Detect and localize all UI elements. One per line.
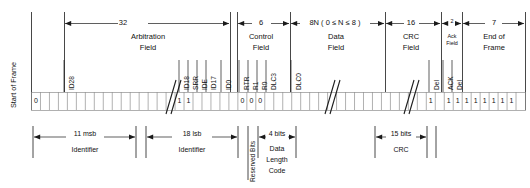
crc-field-line1: CRC <box>381 33 441 41</box>
identifier-msb-caption: Identifier <box>55 146 115 153</box>
r0-bit: 0 <box>256 97 265 104</box>
rtr-bit: 0 <box>238 97 247 104</box>
eof-bit-1: 1 <box>453 97 462 104</box>
crc-annotation-caption: CRC <box>377 146 425 153</box>
start-of-frame-label: Start of Frame <box>10 62 17 108</box>
ack-field-name: Ack Field <box>442 34 462 47</box>
eof-field-bits: 7 <box>479 19 509 27</box>
data-length-code-line3: Code <box>261 167 293 174</box>
ack-del-bit: 1 <box>444 97 453 104</box>
data-length-code-bits: 4 bits <box>261 130 293 137</box>
identifier-lsb-caption: Identifier <box>162 146 222 153</box>
bit-marker-ack-slot: ACK <box>448 76 455 90</box>
crc-del-bit: 1 <box>426 97 435 104</box>
data-field-line2: Field <box>306 44 366 52</box>
eof-bit-5: 1 <box>489 97 498 104</box>
data-length-code-line2: Length <box>261 156 293 163</box>
bit-marker-ide: IDE <box>202 79 209 90</box>
eof-field-name: End of Frame <box>464 33 524 51</box>
arbitration-field-bits: 32 <box>108 19 138 27</box>
reserved-bits-caption: Reserved Bits <box>250 141 257 182</box>
control-field-name: Control Field <box>231 33 291 51</box>
control-field-line2: Field <box>231 44 291 52</box>
bit-marker-crc-delimiter: Del <box>434 80 441 90</box>
crc-annotation-bits: 15 bits <box>377 130 425 137</box>
ack-field-bits: 2 <box>443 19 461 24</box>
identifier-msb-bits: 11 msb <box>55 130 115 137</box>
eof-bit-2: 1 <box>462 97 471 104</box>
r1-bit: 0 <box>247 97 256 104</box>
bit-marker-id28: ID28 <box>69 76 76 90</box>
identifier-lsb-bits: 18 lsb <box>162 130 222 137</box>
crc-field-line2: Field <box>381 44 441 52</box>
arbitration-field-line1: Arbitration <box>103 33 193 41</box>
eof-field-line2: Frame <box>464 44 524 52</box>
bit-marker-id18: ID18 <box>184 76 191 90</box>
bit-marker-srr: SRR <box>193 76 200 90</box>
ide-bit: 1 <box>184 97 193 104</box>
bit-marker-rtr: RTR <box>244 77 251 90</box>
data-field-name: Data Field <box>306 33 366 51</box>
control-field-bits: 6 <box>246 19 276 27</box>
arbitration-field-line2: Field <box>103 44 193 52</box>
eof-bit-4: 1 <box>480 97 489 104</box>
bit-marker-dlc0: DLC0 <box>296 73 303 90</box>
bit-marker-r0: R0 <box>262 82 269 90</box>
eof-field-line1: End of <box>464 33 524 41</box>
srr-bit: 1 <box>175 97 184 104</box>
data-field-bits: 8N ( 0 ≤ N ≤ 8 ) <box>295 19 375 27</box>
data-length-code-line1: Data <box>261 145 293 152</box>
ack-field-line2: Field <box>442 41 462 46</box>
eof-bit-6: 1 <box>498 97 507 104</box>
arbitration-field-name: Arbitration Field <box>103 33 193 51</box>
sof-bit: 0 <box>32 97 41 104</box>
control-field-line1: Control <box>231 33 291 41</box>
bit-marker-r1: R1 <box>253 82 260 90</box>
bit-marker-id0: ID0 <box>226 80 233 90</box>
bit-marker-dlc3: DLC3 <box>271 73 278 90</box>
bit-marker-id17: ID17 <box>211 76 218 90</box>
crc-field-bits: 16 <box>397 19 425 27</box>
eof-bit-3: 1 <box>471 97 480 104</box>
eof-bit-7: 1 <box>507 97 516 104</box>
bit-marker-ack-delimiter: Del <box>457 80 464 90</box>
data-field-line1: Data <box>306 33 366 41</box>
ack-field-line1: Ack <box>448 33 457 39</box>
crc-field-name: CRC Field <box>381 33 441 51</box>
